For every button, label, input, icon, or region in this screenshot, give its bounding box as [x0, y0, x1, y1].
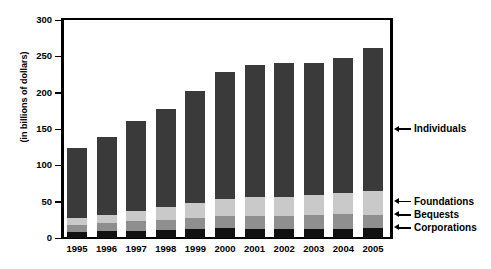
bar-segment-bequests [304, 215, 324, 229]
y-tick-200 [55, 92, 62, 94]
y-tick-250 [55, 56, 62, 58]
table-row [67, 148, 87, 238]
stacked-bar-chart: (in billions of dollars) 050100150200250… [0, 0, 491, 269]
bar-segment-foundations [363, 191, 383, 215]
callout-label-bequests: Bequests [414, 209, 459, 220]
bar-segment-corporations [126, 231, 146, 238]
table-row [185, 91, 205, 238]
table-row [215, 72, 235, 238]
bar-segment-individuals [245, 65, 265, 197]
bar-segment-individuals [97, 137, 117, 215]
bar-segment-corporations [215, 228, 235, 238]
bar-segment-corporations [304, 229, 324, 238]
bar-segment-foundations [245, 197, 265, 216]
bar-segment-bequests [67, 225, 87, 232]
y-tick-100 [55, 165, 62, 167]
bar-segment-foundations [156, 207, 176, 219]
bar-segment-bequests [245, 216, 265, 228]
callout-leader-line [399, 214, 411, 216]
callout-axis-line [390, 18, 393, 239]
bar-segment-individuals [156, 109, 176, 208]
bar-segment-corporations [97, 231, 117, 238]
y-tick-300 [55, 20, 62, 22]
bar-segment-bequests [97, 223, 117, 231]
bar-segment-bequests [185, 218, 205, 230]
callout-label-individuals: Individuals [414, 123, 466, 134]
callout-label-foundations: Foundations [414, 196, 474, 207]
table-row [97, 137, 117, 238]
bar-segment-foundations [274, 197, 294, 217]
bar-segment-foundations [333, 193, 353, 214]
bar-segment-foundations [126, 211, 146, 221]
bar-segment-corporations [156, 230, 176, 238]
bar-segment-corporations [185, 229, 205, 238]
bar-segment-corporations [245, 229, 265, 238]
y-tick-label: 200 [16, 87, 52, 98]
bar-segment-foundations [215, 199, 235, 216]
y-tick-0 [55, 238, 62, 240]
bar-segment-corporations [333, 229, 353, 238]
y-tick-50 [55, 201, 62, 203]
bar-segment-bequests [126, 221, 146, 230]
table-row [126, 121, 146, 238]
bar-segment-bequests [156, 220, 176, 230]
bar-segment-corporations [274, 229, 294, 238]
bar-segment-individuals [363, 48, 383, 190]
bar-segment-foundations [185, 203, 205, 218]
y-tick-label: 0 [16, 232, 52, 243]
table-row [245, 65, 265, 238]
bar-segment-individuals [333, 58, 353, 193]
table-row [363, 48, 383, 238]
table-row [333, 58, 353, 238]
y-tick-label: 250 [16, 50, 52, 61]
plot-top-border [61, 18, 392, 20]
y-tick-label: 300 [16, 14, 52, 25]
callout-leader-line [399, 227, 411, 229]
bar-segment-bequests [215, 216, 235, 228]
bar-segment-foundations [67, 218, 87, 225]
table-row [304, 63, 324, 238]
y-tick-150 [55, 129, 62, 131]
bar-segment-foundations [97, 215, 117, 224]
bar-segment-individuals [304, 63, 324, 195]
table-row [156, 109, 176, 238]
bar-segment-bequests [333, 214, 353, 229]
bar-segment-corporations [67, 232, 87, 238]
bar-segment-corporations [363, 228, 383, 238]
bar-segment-bequests [363, 215, 383, 228]
y-tick-label: 150 [16, 123, 52, 134]
x-tick-label: 2005 [351, 243, 395, 254]
table-row [274, 63, 294, 238]
bar-segment-individuals [67, 148, 87, 218]
y-tick-label: 50 [16, 196, 52, 207]
callout-leader-line [399, 201, 411, 203]
callout-leader-line [399, 128, 411, 130]
bar-segment-individuals [215, 72, 235, 199]
bar-segment-bequests [274, 216, 294, 229]
bar-segment-foundations [304, 195, 324, 215]
callout-label-corporations: Corporations [414, 222, 477, 233]
y-tick-label: 100 [16, 159, 52, 170]
bar-segment-individuals [274, 63, 294, 197]
bar-segment-individuals [126, 121, 146, 211]
bar-segment-individuals [185, 91, 205, 203]
